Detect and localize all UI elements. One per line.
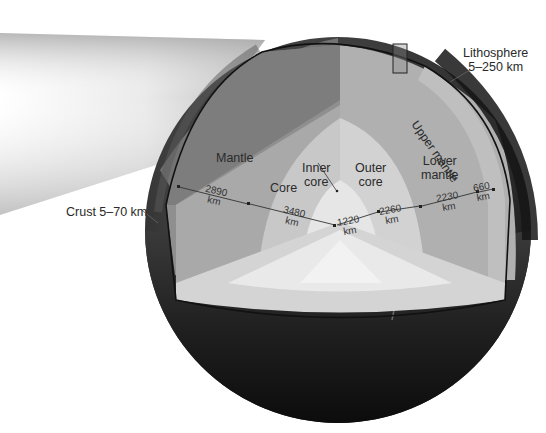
mantle-label: Mantle	[216, 151, 254, 165]
dimension-lower-mantle: 2230 km	[435, 190, 460, 214]
lithosphere-label: Lithosphere 5–250 km	[463, 46, 528, 74]
outer-core-line2: core	[355, 175, 386, 189]
inner-core-line1: Inner	[302, 161, 331, 175]
outer-core-label: Outer core	[355, 161, 386, 189]
dimension-inner-core: 1220 km	[336, 214, 361, 238]
inner-core-label: Inner core	[302, 161, 331, 189]
lower-mantle-label: Lower mantle	[421, 154, 459, 182]
lithosphere-name: Lithosphere	[463, 46, 528, 60]
outer-core-line1: Outer	[355, 161, 386, 175]
lithosphere-range: 5–250 km	[463, 60, 528, 74]
earth-interior-diagram: Lithosphere 5–250 km Upper mantle Mantle…	[0, 0, 546, 433]
globe	[145, 37, 531, 433]
core-label: Core	[270, 181, 297, 195]
lower-mantle-line1: Lower	[421, 154, 459, 168]
lower-mantle-line2: mantle	[421, 168, 459, 182]
lithosphere-inset-box	[393, 44, 407, 73]
crust-label: Crust 5–70 km	[66, 205, 147, 219]
dimension-upper-mantle: 660 km	[472, 181, 492, 204]
dimension-outer-core: 2260 km	[378, 203, 403, 227]
inner-core-line2: core	[302, 175, 331, 189]
